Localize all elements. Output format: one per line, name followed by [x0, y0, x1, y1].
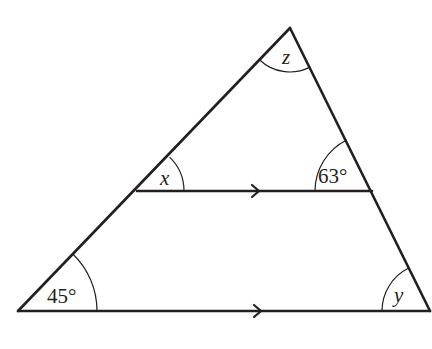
angle-label-63: 63°	[318, 164, 347, 188]
triangle-diagram: z x 63° 45° y	[0, 0, 432, 349]
angle-label-x: x	[159, 166, 170, 190]
left-side-edge	[18, 28, 290, 311]
angle-arc-bottom-left	[73, 254, 97, 311]
angle-label-y: y	[392, 283, 404, 307]
angle-label-z: z	[281, 45, 290, 69]
angle-arc-mid-left	[170, 157, 184, 191]
angle-label-45: 45°	[47, 284, 76, 308]
right-side-edge	[290, 28, 430, 311]
